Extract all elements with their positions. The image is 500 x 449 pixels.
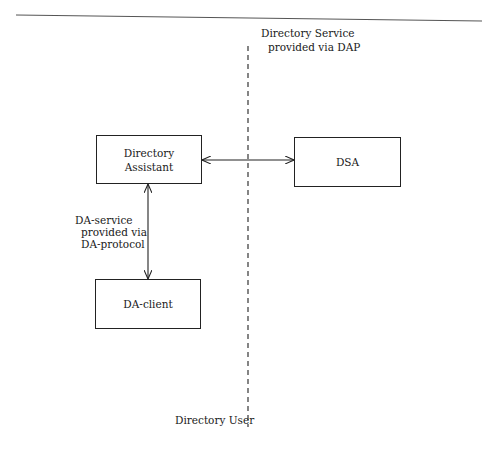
directory-service-label-line1: Directory Service <box>261 27 355 39</box>
da-service-label-line1: DA-service <box>75 214 133 226</box>
dsa-label: DSA <box>336 155 359 169</box>
top-rule <box>16 15 482 21</box>
da-client-box: DA-client <box>95 279 201 329</box>
dsa-box: DSA <box>294 137 401 187</box>
directory-user-label: Directory User <box>175 414 254 426</box>
directory-service-label-line2: provided via DAP <box>268 41 360 53</box>
directory-assistant-box: Directory Assistant <box>96 135 202 184</box>
directory-assistant-label-line2: Assistant <box>125 160 174 174</box>
directory-assistant-label-line1: Directory <box>124 146 174 160</box>
da-service-label-line2: provided via <box>81 226 147 238</box>
da-client-label: DA-client <box>123 297 172 311</box>
da-service-label-line3: DA-protocol <box>81 238 145 250</box>
